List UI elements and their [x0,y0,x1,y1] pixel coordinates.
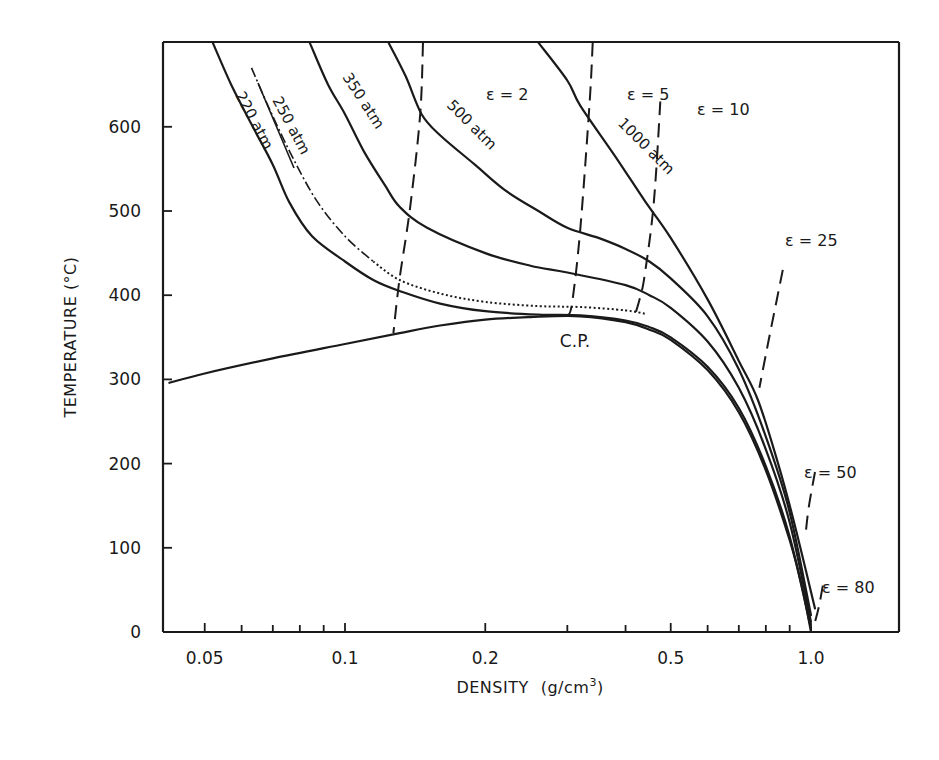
curve-1000-atm [538,43,815,609]
plot-frame [163,42,899,632]
y-tick-label: 100 [109,538,141,558]
y-tick-label: 200 [109,454,141,474]
x-axis-ticks: 0.050.10.20.51.0 [186,623,825,668]
epsilon-label: ε = 5 [627,85,669,104]
x-axis-title-main: DENSITY [456,678,528,697]
x-tick-label: 0.05 [186,648,224,668]
isobar-label: 350 atm [339,69,388,132]
epsilon-label: ε = 25 [785,231,838,250]
isobar-250-atm-lower [373,262,645,314]
x-tick-label: 0.5 [657,648,684,668]
x-tick-label: 0.2 [472,648,499,668]
phase-diagram-chart: 0.050.10.20.51.0 0100200300400500600 220… [0,0,939,760]
dielectric-isoline-25 [759,270,782,388]
epsilon-label: ε = 80 [822,578,875,597]
x-tick-label: 1.0 [797,648,824,668]
isobar-label: 220 atm [231,88,277,152]
x-axis-title-unit: (g/cm [541,678,590,697]
y-tick-label: 400 [109,285,141,305]
y-axis-title: TEMPERATURE (°C) [61,256,80,418]
curve-labels: 220 atm250 atm350 atm500 atm1000 atmε = … [231,69,874,597]
y-tick-label: 300 [109,369,141,389]
y-tick-label: 500 [109,201,141,221]
x-tick-label: 0.1 [331,648,358,668]
y-tick-label: 0 [130,622,141,642]
x-axis-title: DENSITY(g/cm3) [456,676,603,697]
y-tick-label: 600 [109,117,141,137]
curve-500-atm [389,43,812,616]
epsilon-label: ε = 10 [697,100,750,119]
critical-point-label: C.P. [560,331,590,351]
x-axis-title-sup: 3 [589,676,597,689]
epsilon-label: ε = 50 [804,463,857,482]
dielectric-isoline-2 [393,43,423,334]
epsilon-label: ε = 2 [486,85,528,104]
x-axis-title-close: ) [597,678,604,697]
curve-coexistence-curve-vapor-liquid [169,316,811,632]
